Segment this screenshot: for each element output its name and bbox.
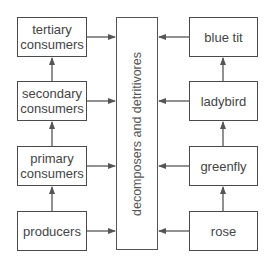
producers-label: producers (23, 224, 81, 239)
primary-consumers-box: primary consumers (17, 146, 87, 186)
decomposers-box: decomposers and detritivores (116, 17, 158, 250)
decomposers-label: decomposers and detritivores (130, 52, 144, 216)
rose-box: rose (189, 211, 258, 251)
tertiary-consumers-label: tertiary consumers (18, 22, 86, 52)
secondary-consumers-box: secondary consumers (17, 81, 87, 121)
primary-consumers-label: primary consumers (18, 151, 86, 181)
greenfly-box: greenfly (189, 146, 258, 186)
blue-tit-box: blue tit (189, 17, 258, 57)
blue-tit-label: blue tit (204, 30, 242, 45)
producers-box: producers (17, 211, 87, 251)
ladybird-label: ladybird (201, 94, 247, 109)
greenfly-label: greenfly (200, 159, 246, 174)
tertiary-consumers-box: tertiary consumers (17, 17, 87, 57)
secondary-consumers-label: secondary consumers (18, 86, 86, 116)
ladybird-box: ladybird (189, 81, 258, 121)
rose-label: rose (211, 224, 236, 239)
